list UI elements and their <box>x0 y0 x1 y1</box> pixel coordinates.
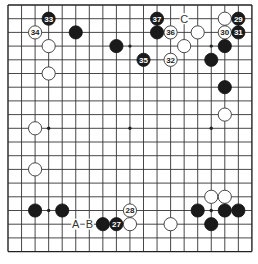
stone-circle <box>232 204 245 217</box>
point-label-c[interactable]: C <box>180 13 189 25</box>
star-point <box>210 127 213 130</box>
black-stone[interactable] <box>232 204 245 217</box>
stones: 3334372936303135322728 <box>28 12 244 231</box>
black-stone-31[interactable]: 31 <box>232 26 245 39</box>
white-stone[interactable] <box>218 12 231 25</box>
white-stone-30[interactable]: 30 <box>218 26 231 39</box>
point-label-a[interactable]: A <box>71 218 80 230</box>
white-stone[interactable] <box>42 40 55 53</box>
stone-circle <box>42 40 55 53</box>
white-stone[interactable] <box>28 163 41 176</box>
move-number: 35 <box>139 56 148 65</box>
label-text: B <box>86 218 93 230</box>
black-stone[interactable] <box>56 204 69 217</box>
move-number: 36 <box>166 28 175 37</box>
black-stone[interactable] <box>205 53 218 66</box>
stone-circle <box>218 204 231 217</box>
star-point <box>128 127 131 130</box>
black-stone[interactable] <box>110 40 123 53</box>
label-text: C <box>180 13 188 25</box>
stone-circle <box>191 204 204 217</box>
black-stone-27[interactable]: 27 <box>110 218 123 231</box>
move-number: 30 <box>220 28 229 37</box>
stone-circle <box>28 122 41 135</box>
stone-circle <box>205 190 218 203</box>
move-number: 28 <box>125 206 134 215</box>
move-number: 31 <box>234 28 243 37</box>
stone-circle <box>56 204 69 217</box>
white-stone-36[interactable]: 36 <box>164 26 177 39</box>
white-stone[interactable] <box>205 190 218 203</box>
move-number: 27 <box>112 220 121 229</box>
move-number: 34 <box>31 28 40 37</box>
stone-circle <box>218 108 231 121</box>
stone-circle <box>205 53 218 66</box>
black-stone[interactable] <box>96 218 109 231</box>
stone-circle <box>150 26 163 39</box>
stone-circle <box>218 81 231 94</box>
stone-circle <box>28 204 41 217</box>
stone-circle <box>218 40 231 53</box>
stone-circle <box>28 163 41 176</box>
black-stone-35[interactable]: 35 <box>137 53 150 66</box>
black-stone-37[interactable]: 37 <box>150 12 163 25</box>
stone-circle <box>42 67 55 80</box>
black-stone[interactable] <box>191 204 204 217</box>
point-label-b[interactable]: B <box>85 218 94 230</box>
star-point <box>128 44 131 47</box>
white-stone[interactable] <box>123 218 136 231</box>
stone-circle <box>164 218 177 231</box>
black-stone[interactable] <box>218 204 231 217</box>
white-stone[interactable] <box>178 40 191 53</box>
star-point <box>210 44 213 47</box>
white-stone[interactable] <box>218 190 231 203</box>
stone-circle <box>69 26 82 39</box>
black-stone[interactable] <box>205 218 218 231</box>
black-stone[interactable] <box>69 26 82 39</box>
stone-circle <box>178 40 191 53</box>
stone-circle <box>205 218 218 231</box>
black-stone[interactable] <box>28 204 41 217</box>
white-stone[interactable] <box>28 122 41 135</box>
black-stone[interactable] <box>218 40 231 53</box>
black-stone[interactable] <box>150 26 163 39</box>
star-point <box>47 209 50 212</box>
white-stone[interactable] <box>218 108 231 121</box>
stone-circle <box>96 218 109 231</box>
white-stone-34[interactable]: 34 <box>28 26 41 39</box>
move-number: 33 <box>44 15 53 24</box>
go-board: CAB 3334372936303135322728 <box>0 0 258 264</box>
black-stone-33[interactable]: 33 <box>42 12 55 25</box>
white-stone[interactable] <box>164 218 177 231</box>
black-stone[interactable] <box>218 81 231 94</box>
stone-circle <box>218 12 231 25</box>
white-stone-32[interactable]: 32 <box>164 53 177 66</box>
stone-circle <box>110 40 123 53</box>
star-point <box>47 127 50 130</box>
black-stone-29[interactable]: 29 <box>232 12 245 25</box>
white-stone[interactable] <box>191 26 204 39</box>
label-text: A <box>72 218 80 230</box>
move-number: 29 <box>234 15 243 24</box>
stone-circle <box>191 26 204 39</box>
move-number: 37 <box>153 15 162 24</box>
white-stone[interactable] <box>42 67 55 80</box>
white-stone-28[interactable]: 28 <box>123 204 136 217</box>
stone-circle <box>218 190 231 203</box>
star-point <box>210 209 213 212</box>
stone-circle <box>123 218 136 231</box>
move-number: 32 <box>166 56 175 65</box>
